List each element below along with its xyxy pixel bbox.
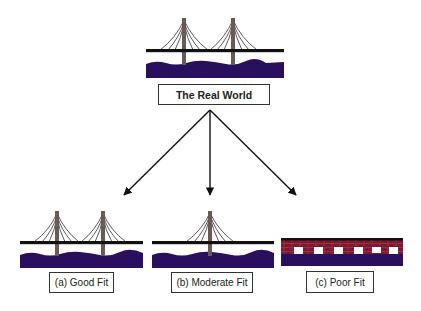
arrow-to-poor-fit: [210, 110, 296, 195]
arrows: [124, 110, 296, 195]
moderate-fit-label-text: (b) Moderate Fit: [176, 277, 247, 288]
real-world-label: The Real World: [158, 84, 270, 105]
real-world-bridge-icon: [146, 18, 284, 78]
good-fit-bridge-icon: [20, 211, 143, 268]
poor-fit-bridge-icon: [281, 238, 403, 266]
real-world-label-text: The Real World: [176, 89, 252, 101]
moderate-fit-bridge-icon: [152, 211, 274, 268]
arrow-to-good-fit: [124, 110, 210, 195]
good-fit-label-text: (a) Good Fit: [55, 277, 108, 288]
poor-fit-label: (c) Poor Fit: [306, 271, 374, 293]
poor-fit-label-text: (c) Poor Fit: [315, 277, 364, 288]
moderate-fit-label: (b) Moderate Fit: [171, 272, 253, 293]
diagram-canvas: [0, 0, 421, 311]
good-fit-label: (a) Good Fit: [49, 272, 114, 293]
